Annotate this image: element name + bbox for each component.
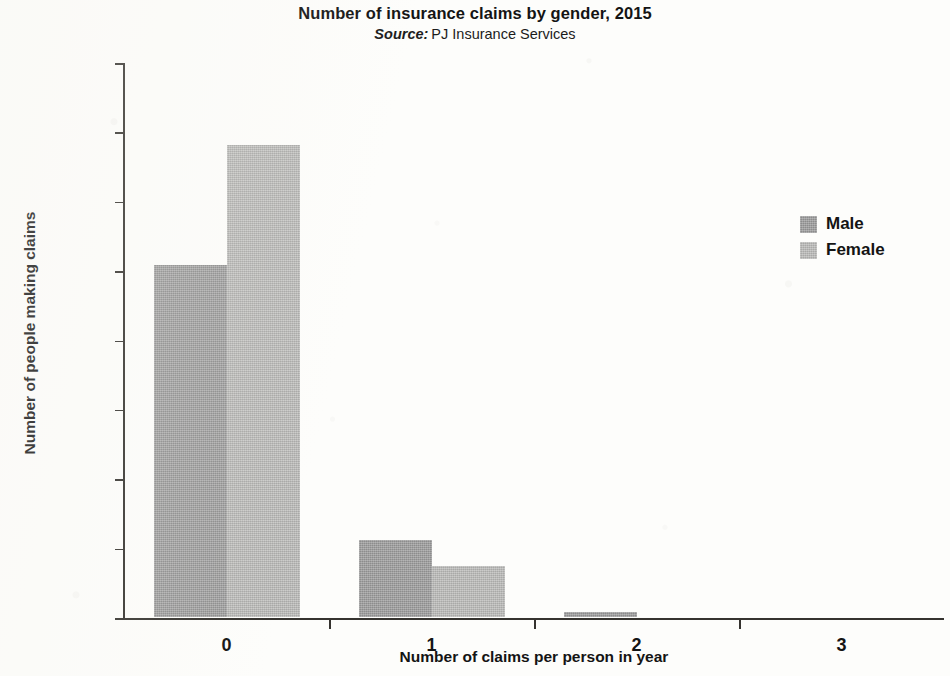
- source-label: Source:: [374, 26, 428, 42]
- chart-subtitle: Source:PJ Insurance Services: [0, 26, 950, 42]
- bar-female-1: [432, 566, 505, 617]
- y-axis-tick: [115, 410, 124, 412]
- x-axis-title: Number of claims per person in year: [124, 648, 944, 666]
- legend-item-female: Female: [800, 237, 885, 263]
- plot-area: 0200040006000800010000120001400016000 01…: [124, 63, 944, 618]
- y-axis-tick: [115, 271, 124, 273]
- bar-male-1: [359, 540, 432, 617]
- legend-item-male: Male: [800, 211, 885, 237]
- x-axis-tick: [329, 619, 331, 629]
- bar-female-0: [227, 145, 300, 617]
- legend: MaleFemale: [800, 211, 885, 263]
- bar-male-0: [154, 265, 227, 617]
- legend-label-male: Male: [826, 214, 864, 234]
- legend-swatch-male: [800, 216, 817, 233]
- y-axis-tick: [115, 618, 124, 620]
- bar-male-2: [564, 612, 637, 617]
- title-block: Number of insurance claims by gender, 20…: [0, 4, 950, 42]
- y-axis-title: Number of people making claims: [21, 123, 39, 543]
- legend-swatch-female: [800, 242, 817, 259]
- chart-title: Number of insurance claims by gender, 20…: [0, 4, 950, 23]
- legend-label-female: Female: [826, 240, 885, 260]
- x-axis-tick: [739, 619, 741, 629]
- x-axis-tick: [534, 619, 536, 629]
- y-axis-tick: [115, 341, 124, 343]
- y-axis-tick: [115, 549, 124, 551]
- source-value: PJ Insurance Services: [431, 26, 575, 42]
- y-axis-tick: [115, 63, 124, 65]
- y-axis-tick: [115, 479, 124, 481]
- y-axis-tick: [115, 132, 124, 134]
- y-axis-tick: [115, 202, 124, 204]
